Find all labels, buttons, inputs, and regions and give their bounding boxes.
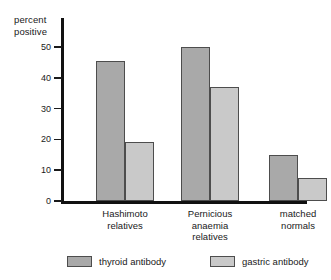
- legend-label: gastric antibody: [242, 257, 309, 267]
- y-axis-tick-label-wrap: 0: [28, 201, 51, 202]
- y-axis-tick-label-wrap: 50: [28, 47, 51, 48]
- bar-gastric: [298, 178, 327, 201]
- bar-thyroid: [181, 47, 210, 201]
- bar-thyroid: [96, 61, 125, 201]
- legend-swatch-thyroid: [67, 256, 92, 267]
- x-axis-line: [61, 201, 307, 204]
- legend-label: thyroid antibody: [99, 257, 166, 267]
- y-axis-tick: [54, 46, 62, 48]
- legend-swatch-gastric: [210, 256, 235, 267]
- y-axis-tick-label: 0: [28, 197, 51, 206]
- x-axis-category-label: Pernicious anaemia relatives: [160, 208, 260, 243]
- y-axis-tick-label: 40: [28, 73, 51, 82]
- plot-area: [64, 18, 307, 201]
- y-axis-tick-label-wrap: 10: [28, 170, 51, 171]
- legend-item: thyroid antibody: [67, 256, 166, 267]
- y-axis-tick: [54, 108, 62, 110]
- y-axis-tick: [54, 200, 62, 202]
- bar-group: [269, 18, 327, 201]
- y-axis-title: percent positive: [14, 14, 47, 37]
- bar-group: [96, 18, 154, 201]
- x-axis-category-label: matched normals: [248, 208, 331, 231]
- bar-thyroid: [269, 155, 298, 201]
- y-axis-tick-label-wrap: 30: [28, 109, 51, 110]
- bar-gastric: [125, 142, 154, 201]
- y-axis-tick-label-wrap: 20: [28, 139, 51, 140]
- y-axis-tick: [54, 169, 62, 171]
- legend-item: gastric antibody: [210, 256, 309, 267]
- y-axis-tick: [54, 139, 62, 141]
- y-axis-tick-label: 20: [28, 135, 51, 144]
- y-axis-tick-label: 30: [28, 104, 51, 113]
- bar-gastric: [210, 87, 239, 201]
- y-axis-tick-label: 50: [28, 43, 51, 52]
- y-axis-tick: [54, 77, 62, 79]
- y-axis-tick-label-wrap: 40: [28, 78, 51, 79]
- bar-group: [181, 18, 239, 201]
- y-axis-tick-label: 10: [28, 166, 51, 175]
- bar-chart-figure: percent positive 01020304050 Hashimoto r…: [0, 0, 331, 280]
